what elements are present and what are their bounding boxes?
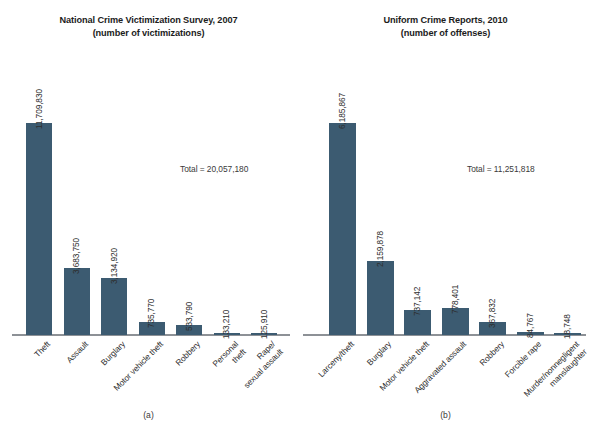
category-label-line: Forcible rape bbox=[503, 339, 543, 379]
category-label: Assault bbox=[64, 339, 90, 365]
category-label: Robbery bbox=[477, 339, 506, 368]
plot-area-b: 6,185,867Larceny/theft2,159,878Burglary7… bbox=[297, 0, 594, 434]
category-label: Forcible rape bbox=[503, 339, 544, 380]
bar-value-label: 367,832 bbox=[487, 299, 497, 328]
category-label-line: Burglary bbox=[365, 339, 393, 367]
plot-area-a: 11,709,830Theft3,683,750Assault3,134,920… bbox=[0, 0, 297, 434]
category-label: Robbery bbox=[173, 339, 202, 368]
bar bbox=[64, 268, 90, 335]
category-label-line: Larceny/theft bbox=[315, 339, 355, 379]
bar-value-label: 778,401 bbox=[450, 285, 460, 314]
bar-value-label: 125,910 bbox=[259, 310, 269, 339]
category-label-line: Robbery bbox=[173, 339, 202, 368]
bar bbox=[26, 123, 52, 335]
bar-value-label: 133,210 bbox=[221, 310, 231, 339]
bar-value-label: 6,185,867 bbox=[337, 93, 347, 129]
category-label: Burglary bbox=[99, 339, 128, 368]
category-label-line: Assault bbox=[64, 339, 90, 365]
bar-value-label: 18,748 bbox=[562, 314, 572, 339]
category-label-line: Theft bbox=[32, 339, 52, 359]
bar-value-label: 3,683,750 bbox=[71, 238, 81, 274]
category-label: Burglary bbox=[365, 339, 394, 368]
bar-value-label: 11,709,830 bbox=[34, 89, 44, 129]
chart-panel-a: National Crime Victimization Survey, 200… bbox=[0, 0, 297, 434]
chart-panel-b: Uniform Crime Reports, 2010 (number of o… bbox=[297, 0, 594, 434]
bar-value-label: 84,767 bbox=[525, 313, 535, 338]
panel-caption-a: (a) bbox=[0, 410, 297, 420]
bar-value-label: 735,770 bbox=[146, 299, 156, 328]
category-label-line: Burglary bbox=[99, 339, 127, 367]
category-label-line: Robbery bbox=[477, 339, 506, 368]
panel-caption-b: (b) bbox=[297, 410, 594, 420]
bar-value-label: 2,159,878 bbox=[375, 231, 385, 267]
bar-value-label: 3,134,920 bbox=[109, 248, 119, 284]
bar bbox=[101, 278, 127, 335]
category-label: Theft bbox=[32, 339, 52, 359]
bar-value-label: 737,142 bbox=[412, 287, 422, 316]
bar bbox=[329, 123, 356, 335]
bar bbox=[367, 261, 394, 335]
bar-value-label: 533,790 bbox=[184, 302, 194, 331]
category-label: Larceny/theft bbox=[315, 339, 355, 379]
